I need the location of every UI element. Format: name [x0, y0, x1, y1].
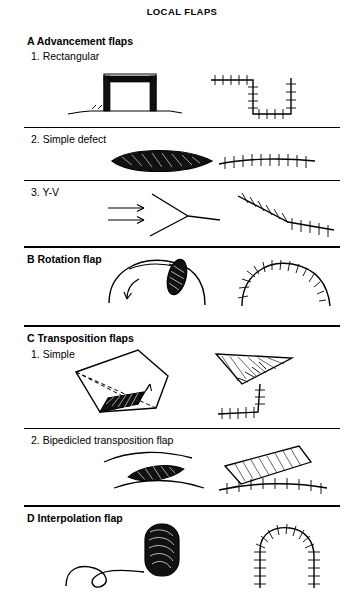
- art-a3-design: [104, 190, 224, 238]
- art-d-design: [58, 524, 198, 594]
- item-label-a1: 1. Rectangular: [31, 50, 99, 62]
- divider-a1: [24, 127, 340, 128]
- item-label-a3: 3. Y-V: [31, 186, 59, 198]
- divider-c1: [24, 428, 340, 429]
- art-a1-design: [60, 62, 190, 122]
- art-a2-design: [108, 145, 218, 177]
- section-label-b: B Rotation flap: [27, 253, 102, 265]
- art-a1-sutured: [205, 62, 315, 122]
- section-label-c: C Transposition flaps: [27, 332, 134, 344]
- art-a2-sutured: [215, 150, 320, 174]
- item-label-c2: 2. Bipedicled transposition flap: [31, 434, 173, 446]
- divider-section-d: [24, 505, 340, 507]
- art-b-design: [105, 255, 215, 311]
- art-c2-sutured: [215, 440, 335, 496]
- art-a3-sutured: [234, 192, 344, 242]
- section-label-d: D Interpolation flap: [27, 512, 123, 524]
- art-c1-design: [62, 346, 192, 422]
- art-b-sutured: [238, 258, 338, 310]
- art-c2-design: [100, 448, 210, 494]
- page-title: LOCAL FLAPS: [0, 6, 364, 17]
- figure-page: LOCAL FLAPS A Advancement flaps 1. Recta…: [0, 0, 364, 608]
- art-c1-sutured: [208, 348, 323, 420]
- section-label-a: A Advancement flaps: [27, 35, 133, 47]
- art-d-sutured: [232, 522, 342, 592]
- divider-a2: [24, 180, 340, 181]
- divider-section-c: [24, 325, 340, 327]
- divider-section-b: [24, 246, 340, 248]
- item-label-a2: 2. Simple defect: [31, 133, 106, 145]
